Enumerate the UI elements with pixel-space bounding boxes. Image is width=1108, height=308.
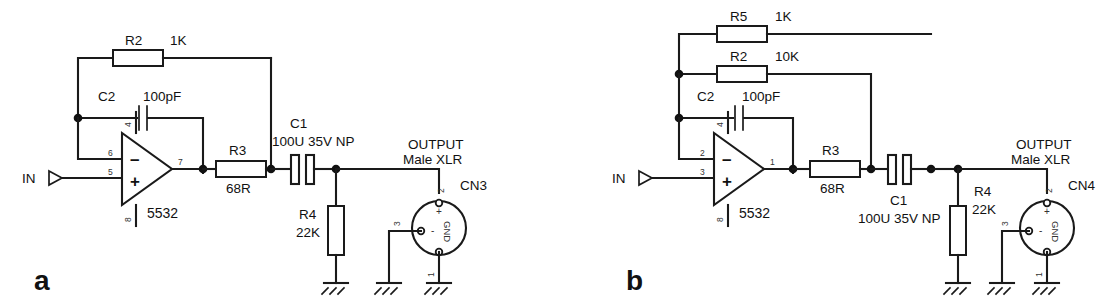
r5-value-label: 1K — [775, 9, 792, 24]
c1-value-label: 100U 35V NP — [272, 134, 355, 149]
r2b-value-label: 10K — [775, 49, 799, 64]
xlr-pin2-mark: + — [1044, 206, 1050, 217]
component-r4-a: R4 22K — [296, 165, 348, 294]
component-r2-a: R2 1K — [78, 33, 271, 118]
schematic-sheet: R2 1K C2 100pF – + — [0, 0, 1108, 308]
r4b-ref-label: R4 — [974, 184, 992, 199]
ground-symbol — [944, 283, 970, 294]
input-port-b: IN — [612, 171, 652, 186]
opamp-pin-output: 7 — [178, 157, 183, 167]
xlr-pin2-mark: + — [436, 206, 442, 217]
circuit-diagram-a: R2 1K C2 100pF – + — [0, 0, 554, 308]
r5-ref-label: R5 — [730, 9, 747, 24]
c1b-value-label: 100U 35V NP — [858, 211, 941, 226]
ground-symbol — [322, 283, 348, 294]
c2-ref-label: C2 — [98, 89, 115, 104]
xlr-pin2-number: 2 — [436, 188, 446, 193]
opamp-noninverting-sign: + — [722, 172, 732, 191]
connector-title-line2: Male XLR — [1011, 152, 1071, 167]
ground-symbol — [375, 283, 401, 294]
opamp-pin-inverting: 2 — [700, 148, 705, 158]
opamp-pin-noninverting: 3 — [700, 167, 705, 177]
panel-label-b: b — [626, 265, 643, 296]
r3-ref-label: R3 — [229, 143, 246, 158]
component-opamp-5532-b: – + 5532 2 3 1 4 8 — [652, 112, 793, 226]
opamp-pin-vplus: 4 — [123, 122, 133, 127]
ground-symbol — [1033, 283, 1059, 294]
connector-title-line2: Male XLR — [403, 152, 463, 167]
component-opamp-5532-a: – + 5532 6 5 7 4 8 — [62, 112, 203, 226]
opamp-noninverting-sign: + — [130, 172, 140, 191]
input-label: IN — [612, 171, 626, 186]
connector-title-line1: OUTPUT — [1016, 137, 1072, 152]
c1b-ref-label: C1 — [890, 193, 907, 208]
input-port-triangle-icon — [639, 171, 652, 185]
component-c1-a: C1 100U 35V NP — [271, 116, 355, 184]
r3b-ref-label: R3 — [822, 143, 839, 158]
r4b-value-label: 22K — [972, 202, 996, 217]
c2-value-label: 100pF — [143, 89, 181, 104]
component-r3-a: R3 68R — [203, 143, 271, 196]
c2b-value-label: 100pF — [742, 89, 780, 104]
component-r4-b: R4 22K — [944, 165, 996, 294]
opamp-type-label: 5532 — [739, 205, 770, 221]
opamp-inverting-sign: – — [130, 150, 139, 169]
connector-xlr-b: OUTPUT Male XLR CN4 2 + 3 - 1 GND — [988, 137, 1095, 294]
opamp-pin-vminus: 8 — [123, 217, 133, 222]
xlr-pin3-mark: - — [431, 225, 434, 236]
connector-ref-label: CN4 — [1068, 178, 1095, 193]
connector-ref-label: CN3 — [460, 178, 487, 193]
r2-ref-label: R2 — [125, 33, 142, 48]
circuit-diagram-b: R5 1K R2 10K C2 100pF — [554, 0, 1108, 308]
opamp-pin-noninverting: 5 — [108, 167, 113, 177]
connector-title-line1: OUTPUT — [408, 137, 464, 152]
input-label: IN — [22, 171, 36, 186]
component-r3-b: R3 68R — [793, 143, 871, 196]
connector-xlr-a: OUTPUT Male XLR CN3 2 + 3 - 1 GND — [375, 137, 487, 294]
input-port-a: IN — [22, 171, 62, 186]
ground-symbol — [425, 283, 451, 294]
r4-ref-label: R4 — [299, 207, 317, 222]
xlr-pin1-number: 1 — [1034, 272, 1044, 277]
opamp-type-label: 5532 — [147, 205, 178, 221]
opamp-pin-output: 1 — [770, 157, 775, 167]
panel-label-a: a — [34, 265, 50, 296]
xlr-pin3-mark: - — [1039, 225, 1042, 236]
r3-value-label: 68R — [226, 181, 251, 196]
xlr-pin1-number: 1 — [426, 272, 436, 277]
r2-value-label: 1K — [170, 33, 187, 48]
xlr-pin3-number: 3 — [1000, 221, 1010, 226]
opamp-pin-vminus: 8 — [715, 217, 725, 222]
c2b-ref-label: C2 — [697, 89, 714, 104]
r4-value-label: 22K — [296, 225, 320, 240]
component-r5-b: R5 1K — [679, 9, 931, 74]
opamp-pin-vplus: 4 — [715, 122, 725, 127]
r2b-ref-label: R2 — [730, 49, 747, 64]
r3b-value-label: 68R — [820, 181, 845, 196]
xlr-ground-text: GND — [1050, 221, 1061, 242]
input-port-triangle-icon — [49, 171, 62, 185]
ground-symbol — [988, 283, 1014, 294]
xlr-ground-text: GND — [442, 221, 453, 242]
opamp-pin-inverting: 6 — [108, 148, 113, 158]
opamp-inverting-sign: – — [722, 150, 731, 169]
xlr-pin2-number: 2 — [1044, 188, 1054, 193]
xlr-pin3-number: 3 — [392, 221, 402, 226]
c1-ref-label: C1 — [290, 116, 307, 131]
